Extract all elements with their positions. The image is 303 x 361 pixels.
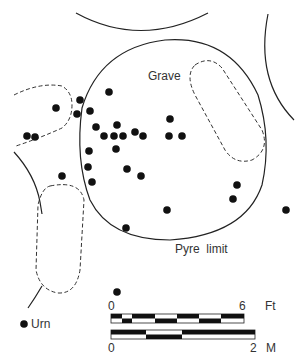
ditch-arc-left [14,152,42,214]
urn-icon [110,132,118,140]
urn-icon [113,288,121,296]
pyre-limit-label: Pyre limit [175,243,228,255]
urn-icon [119,132,127,140]
legend-urn-label: Urn [31,318,50,330]
scale-ft-start: 0 [108,300,115,312]
urn-icon [92,123,100,131]
pit-outline-left [14,85,72,146]
urn-icon [31,133,39,141]
urn-icon [139,132,147,140]
urn-icon [112,145,120,153]
scale-bar-feet [111,314,244,323]
urn-icon [86,107,94,115]
urn-icon [58,172,66,180]
urn-icon [131,128,139,136]
grave-label: Grave [148,70,181,82]
ditch-arc-right [265,14,294,120]
scale-ft-unit: Ft [265,300,276,312]
urn-icon [229,195,237,203]
urn-icon [52,104,60,112]
urn-icon [122,224,130,232]
urn-icon [178,132,186,140]
urn-icon [113,121,121,129]
ditch-arc-top [76,13,208,31]
urn-icon [163,206,171,214]
scale-m-start: 0 [108,342,115,354]
urn-icon [105,88,113,96]
scale-m-end: 2 [250,342,257,354]
urn-icon [85,147,93,155]
urn-icon [166,115,174,123]
urn-icon [233,181,241,189]
urn-icon [137,172,145,180]
urn-icon [84,163,92,171]
urn-icon [282,206,290,214]
urn-icon [73,110,81,118]
scale-m-unit: M [266,342,276,354]
pit-outline-lower [36,185,84,293]
urn-icon [88,178,96,186]
grave-outline [190,61,264,162]
urn-icon [23,132,31,140]
legend-urn-icon [20,320,28,328]
urn-icon [100,132,108,140]
urn-icon [123,165,131,173]
scale-ft-end: 6 [239,300,246,312]
ditch-arc-bottom-left [28,286,42,308]
urn-icon [76,96,84,104]
scale-bar-metres [111,330,255,339]
urn-markers [23,88,290,296]
site-plan [0,0,303,361]
urn-icon [165,132,173,140]
